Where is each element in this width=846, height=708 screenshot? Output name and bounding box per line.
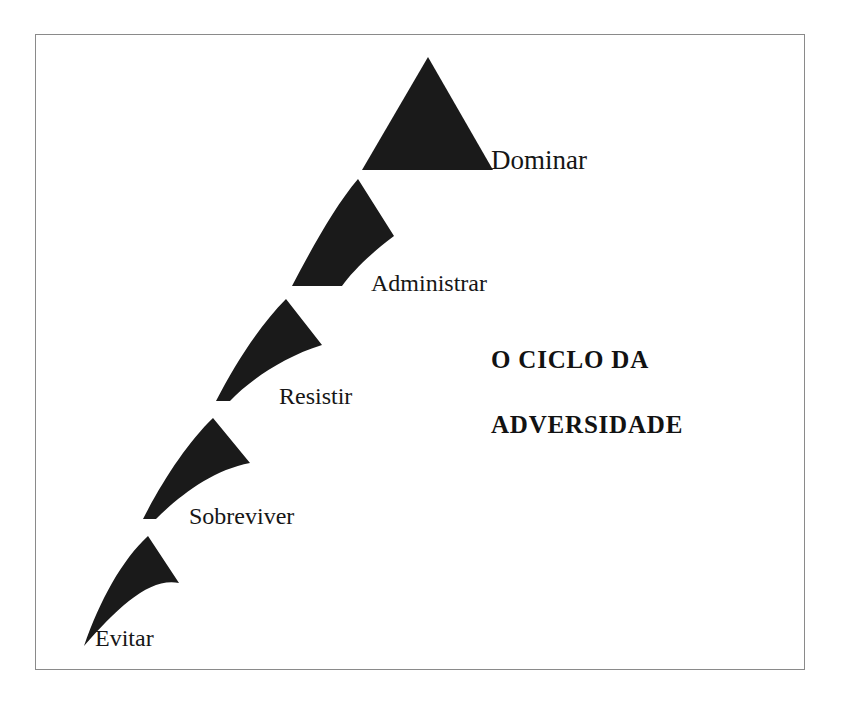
stage-label-administrar: Administrar	[371, 271, 487, 295]
stage-label-sobreviver: Sobreviver	[189, 504, 294, 528]
diagram-title-line-2: ADVERSIDADE	[491, 412, 683, 437]
stage-label-dominar: Dominar	[491, 147, 587, 174]
diagram-frame	[35, 34, 805, 670]
stage-label-resistir: Resistir	[279, 384, 352, 408]
figure-root: Dominar Administrar Resistir Sobreviver …	[0, 0, 846, 708]
diagram-title-line-1: O CICLO DA	[491, 347, 649, 372]
stage-label-evitar: Evitar	[95, 626, 154, 650]
